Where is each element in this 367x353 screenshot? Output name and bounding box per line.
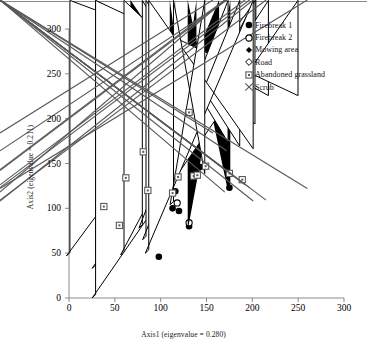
legend-label: Abandoned grassland: [255, 70, 325, 79]
legend-item: Mowing area: [243, 44, 365, 56]
x-tick-label: 250: [291, 303, 305, 313]
legend-label: Road: [255, 58, 272, 67]
data-point-filled-circle: [169, 205, 176, 212]
legend-marker-open-diamond: [243, 56, 255, 68]
data-point-dotted-square: [246, 72, 252, 78]
legend-item: Firebreak 2: [243, 31, 365, 43]
data-point-cross-x: [245, 83, 252, 90]
scatter-plot-figure: 050100150200250300 050100150200250300 Ax…: [0, 0, 367, 353]
x-axis-title: Axis1 (eigenvalue = 0.280): [0, 330, 367, 339]
data-point-dotted-square: [123, 175, 129, 181]
y-tick-label: 300: [31, 24, 61, 34]
data-point-dotted-square: [101, 203, 107, 209]
data-point-filled-circle: [246, 22, 253, 29]
data-point-dotted-square: [175, 174, 181, 180]
legend: Firebreak 1Firebreak 2Mowing areaRoadAba…: [243, 19, 365, 93]
legend-label: Scrub: [255, 83, 274, 92]
data-point-filled-circle: [156, 253, 163, 260]
legend-item: Abandoned grassland: [243, 69, 365, 81]
legend-item: Scrub: [243, 81, 365, 93]
legend-label: Firebreak 1: [255, 21, 292, 30]
data-point-dotted-square: [194, 172, 200, 178]
data-point-filled-circle: [176, 208, 183, 215]
x-tick-label: 0: [67, 303, 72, 313]
y-axis-title-wrapper: Axis2 (eigenvalue = 0.211): [19, 67, 37, 267]
data-point-dotted-square: [145, 187, 151, 193]
x-tick-label: 200: [245, 303, 259, 313]
data-point-filled-diamond: [246, 47, 252, 53]
legend-label: Firebreak 2: [255, 33, 292, 42]
legend-marker-filled-diamond: [243, 44, 255, 56]
legend-label: Mowing area: [255, 45, 298, 54]
legend-item: Firebreak 1: [243, 19, 365, 31]
x-tick-label: 50: [110, 303, 120, 313]
x-tick-label: 300: [337, 303, 351, 313]
x-tick-label: 100: [154, 303, 168, 313]
legend-marker-open-circle: [243, 32, 255, 44]
y-axis-title: Axis2 (eigenvalue = 0.211): [26, 125, 35, 209]
legend-item: Road: [243, 56, 365, 68]
data-point-open-circle: [246, 34, 252, 40]
legend-marker-cross-x: [243, 81, 255, 93]
legend-marker-dotted-square: [243, 69, 255, 81]
x-tick-label: 150: [199, 303, 213, 313]
data-point-dotted-square: [140, 149, 146, 155]
data-point-dotted-square: [169, 190, 175, 196]
data-point-dotted-square: [116, 222, 122, 228]
y-tick-label: 0: [31, 293, 61, 303]
data-point-dotted-square: [202, 163, 208, 169]
legend-marker-filled-circle: [243, 19, 255, 31]
data-point-open-diamond: [246, 59, 253, 66]
data-point-open-circle: [174, 200, 180, 206]
